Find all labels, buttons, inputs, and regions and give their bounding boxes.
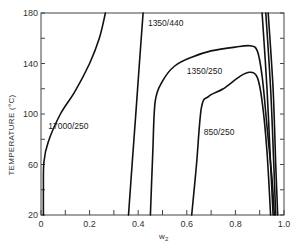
y-tick-label: 100 xyxy=(23,109,38,119)
curve-label-17000-250: 17000/250 xyxy=(48,121,88,131)
x-tick-label: 1.0 xyxy=(278,219,291,229)
x-tick-label: 0.8 xyxy=(229,219,242,229)
curve-label-850-250: 850/250 xyxy=(204,127,235,137)
curve-label-1350-250: 1350/250 xyxy=(187,66,223,76)
curve-17000-250 xyxy=(43,13,105,215)
x-tick-label: 0.4 xyxy=(132,219,145,229)
x-axis-title-main: w xyxy=(158,232,165,241)
plot-axes: 00.20.40.60.81.02060100140180 xyxy=(23,8,290,229)
y-tick-label: 140 xyxy=(23,59,38,69)
x-tick-label: 0.2 xyxy=(83,219,96,229)
x-axis-title-subscript: 2 xyxy=(165,236,169,242)
x-tick-label: 0 xyxy=(38,219,43,229)
y-tick-label: 180 xyxy=(23,8,38,18)
curves-group xyxy=(43,13,277,215)
chart-canvas: 00.20.40.60.81.02060100140180 17000/2501… xyxy=(0,0,306,249)
x-tick-label: 0.6 xyxy=(181,219,194,229)
curve-850-250 xyxy=(192,72,271,215)
plot-frame xyxy=(41,13,284,215)
y-tick-label: 60 xyxy=(28,160,38,170)
curve-label-1350-440: 1350/440 xyxy=(148,18,184,28)
x-axis-title: w2 xyxy=(158,232,169,242)
curve-1350-440 xyxy=(129,13,144,215)
y-axis-title: TEMPERATURE (°C) xyxy=(7,94,16,175)
y-tick-label: 20 xyxy=(28,210,38,220)
